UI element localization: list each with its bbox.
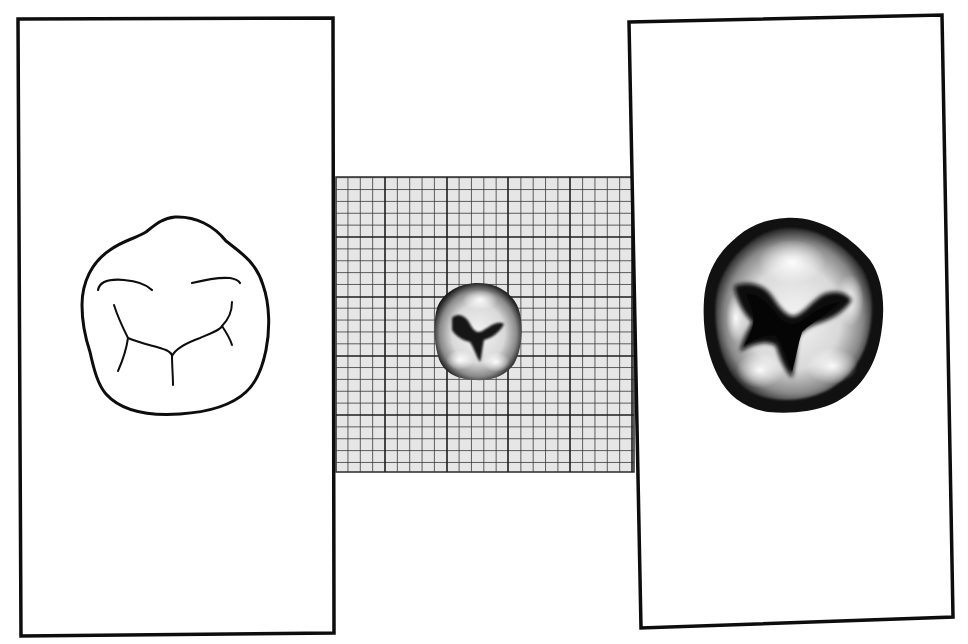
tooth-photo-small — [434, 283, 521, 380]
cusp-highlight — [482, 352, 510, 372]
figure-stage — [0, 0, 968, 644]
cusp-highlight — [446, 350, 474, 370]
cusp-highlight — [806, 348, 858, 384]
cusp-highlight — [758, 240, 826, 284]
left-panel — [18, 18, 334, 636]
center-panel — [336, 177, 634, 472]
fissure-branch-center — [172, 356, 173, 385]
figure-canvas — [0, 0, 968, 644]
cusp-highlight — [462, 290, 498, 310]
cusp-highlight — [736, 352, 784, 388]
right-panel — [629, 15, 953, 628]
tooth-photo-large — [704, 218, 884, 413]
left-panel-frame — [18, 18, 334, 636]
